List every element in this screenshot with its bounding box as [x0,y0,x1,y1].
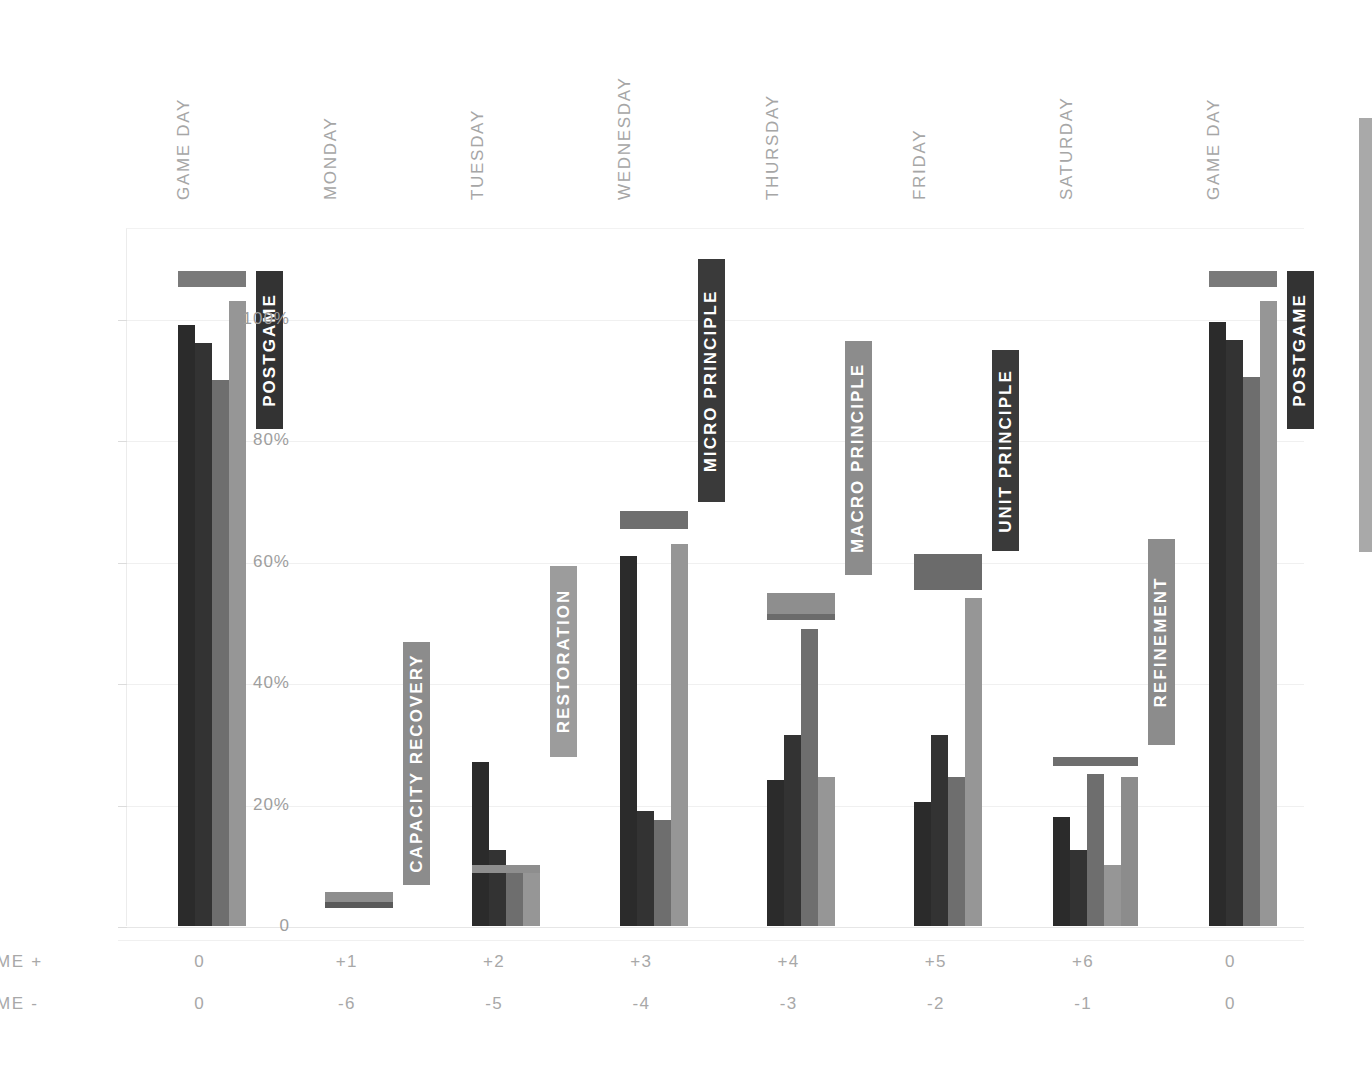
axis-cell-value: 0 [1225,952,1236,972]
bar [654,820,671,926]
phase-label-text: CAPACITY RECOVERY [407,653,427,873]
bar [1243,377,1260,926]
bar [472,762,489,926]
bar [1070,850,1087,926]
phase-bracket-bar [178,271,246,286]
day-label: GAME DAY [174,98,194,200]
bar [1121,777,1138,926]
bar [1053,817,1070,926]
bar-group-2 [422,228,569,926]
y-axis-tick-label: 80% [170,430,290,450]
phase-label-chip: RESTORATION [550,566,577,757]
y-tick-60% [118,563,127,564]
bar [229,301,246,926]
day-label: TUESDAY [468,109,488,200]
bar [1087,774,1104,926]
phase-bracket-bar [325,892,393,908]
phase-bracket-accent [767,614,835,620]
bar-group-6 [1011,228,1158,926]
axis-cell-value: +5 [925,952,947,972]
bar [948,777,965,926]
phase-label-text: MICRO PRINCIPLE [701,289,721,472]
phase-bracket-bar [767,593,835,620]
bar [784,735,801,926]
phase-bracket-bar [620,511,688,529]
bar [489,850,506,926]
bar-group-3 [569,228,716,926]
phase-label-text: POSTGAME [1290,294,1310,408]
bar [637,811,654,926]
axis-cell-value: -6 [338,994,356,1014]
phase-bracket-bar [472,865,540,873]
bar [620,556,637,926]
phase-bracket-bar [914,554,982,590]
y-tick-20% [118,806,127,807]
bar [178,325,195,926]
axis-row-label: GAME + [0,952,118,972]
bar [914,802,931,926]
y-tick-40% [118,684,127,685]
bar [212,380,229,926]
bar [1226,340,1243,926]
axis-cell-value: -4 [632,994,650,1014]
bar [818,777,835,926]
bar [965,598,982,926]
phase-label-chip: POSTGAME [256,271,283,429]
phase-label-chip: CAPACITY RECOVERY [403,642,430,885]
bar [1260,301,1277,926]
day-label: FRIDAY [910,129,930,200]
axis-cell-value: 0 [194,952,205,972]
phase-label-text: UNIT PRINCIPLE [996,369,1016,533]
y-tick-100% [118,320,127,321]
bar [767,780,784,926]
y-axis-tick-label: 60% [170,552,290,572]
bar [523,865,540,926]
axis-cell-value: -2 [927,994,945,1014]
axis-cell-value: +4 [778,952,800,972]
phase-label-chip: POSTGAME [1287,271,1314,429]
axis-cell-value: +6 [1072,952,1094,972]
day-header-row: GAME DAYMONDAYTUESDAYWEDNESDAYTHURSDAYFR… [126,0,1204,228]
day-label: GAME DAY [1204,98,1224,200]
axis-cell-value: +1 [336,952,358,972]
vertical-scrollbar-thumb[interactable] [1359,118,1372,552]
bar [506,865,523,926]
y-axis-tick-label: 100% [170,309,290,329]
axis-table-rule [118,940,1304,941]
day-label: MONDAY [321,116,341,200]
axis-cell-value: -5 [485,994,503,1014]
phase-bracket-bar [1053,757,1138,766]
vertical-scrollbar-track[interactable] [1358,0,1372,1069]
phase-bracket-accent [325,902,393,908]
bar-group-4 [716,228,863,926]
bar-group-7 [1158,228,1305,926]
axis-cell-value: 0 [1225,994,1236,1014]
day-label: THURSDAY [763,94,783,200]
phase-label-chip: MACRO PRINCIPLE [845,341,872,575]
phase-label-chip: MICRO PRINCIPLE [698,259,725,502]
axis-cell-value: +3 [630,952,652,972]
phase-label-text: REFINEMENT [1151,576,1171,707]
axis-cell-value: -3 [780,994,798,1014]
bar-group-0 [127,228,274,926]
bar [1104,865,1121,926]
axis-row-label: GAME - [0,994,118,1014]
y-tick-80% [118,441,127,442]
bar-group-1 [274,228,421,926]
chart-plot-area: POSTGAMECAPACITY RECOVERYRESTORATIONMICR… [126,228,1304,926]
day-label: WEDNESDAY [615,76,635,200]
phase-label-text: RESTORATION [554,589,574,734]
phase-label-text: MACRO PRINCIPLE [848,363,868,553]
bar [671,544,688,926]
day-label: SATURDAY [1057,96,1077,200]
axis-cell-value: +2 [483,952,505,972]
bar [1209,322,1226,926]
axis-cell-value: -1 [1074,994,1092,1014]
phase-label-chip: UNIT PRINCIPLE [992,350,1019,550]
bar [931,735,948,926]
axis-cell-value: 0 [194,994,205,1014]
phase-bracket-bar [1209,271,1277,286]
bar [801,629,818,926]
phase-label-chip: REFINEMENT [1148,539,1175,745]
y-axis-tick-label: 20% [170,795,290,815]
